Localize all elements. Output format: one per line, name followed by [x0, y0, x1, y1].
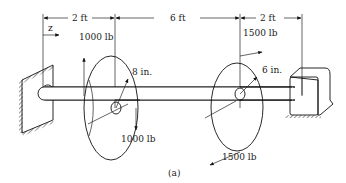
disk-2-radius-label: 6 in.	[262, 65, 282, 75]
dim-label-1: 2 ft	[72, 13, 88, 23]
disk-1-force-down-label: 1000 lb	[121, 134, 156, 144]
dim-label-3: 2 ft	[260, 13, 276, 23]
disk-2-force-top-arrow-icon	[240, 52, 262, 56]
left-wall-support	[19, 65, 54, 136]
disk-1-radius-label: 8 in.	[132, 67, 152, 77]
z-axis-label: z	[48, 23, 53, 33]
disk-2-force-top-label: 1500 lb	[243, 28, 278, 38]
disk-1-force-up-label: 1000 lb	[79, 32, 114, 42]
disk-2-force-bottom-label: 1500 lb	[222, 152, 257, 162]
dim-label-2: 6 ft	[170, 13, 186, 23]
figure-caption: (a)	[168, 168, 180, 178]
shaft-diagram: 2 ft 6 ft 2 ft z 8 in. 1000 lb 1000 lb	[0, 0, 346, 183]
